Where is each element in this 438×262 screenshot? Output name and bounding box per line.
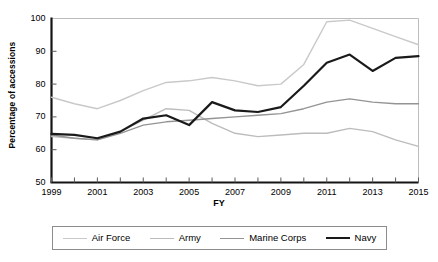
legend-label: Army <box>179 233 201 243</box>
x-tick-2005: 2005 <box>169 188 209 197</box>
legend-line-swatch <box>326 237 350 239</box>
legend-line-swatch <box>220 238 244 239</box>
x-tick-2015: 2015 <box>399 188 438 197</box>
x-tick-2013: 2013 <box>353 188 393 197</box>
legend-label: Navy <box>355 233 377 243</box>
x-axis-label: FY <box>0 198 438 208</box>
legend-item-air-force: Air Force <box>63 233 131 243</box>
x-tick-2001: 2001 <box>77 188 117 197</box>
chart-figure: Percentage of accessions 1009080706050 1… <box>0 0 438 262</box>
y-tick-60: 60 <box>24 145 46 154</box>
y-tick-70: 70 <box>24 112 46 121</box>
series-line-navy <box>52 55 419 139</box>
y-tick-100: 100 <box>24 14 46 23</box>
x-tick-2003: 2003 <box>123 188 163 197</box>
plot-area <box>0 0 438 262</box>
x-tick-2007: 2007 <box>215 188 255 197</box>
series-lines <box>52 20 419 146</box>
y-tick-50: 50 <box>24 178 46 187</box>
x-tick-2011: 2011 <box>307 188 347 197</box>
y-axis-label-container: Percentage of accessions <box>0 0 24 190</box>
legend-item-army: Army <box>150 233 201 243</box>
legend-item-navy: Navy <box>326 233 377 243</box>
legend-label: Air Force <box>92 233 131 243</box>
x-tick-2009: 2009 <box>261 188 301 197</box>
legend-item-marine-corps: Marine Corps <box>220 233 306 243</box>
x-tick-1999: 1999 <box>32 188 72 197</box>
axis-lines <box>51 18 419 183</box>
chart-legend: Air ForceArmyMarine CorpsNavy <box>52 226 387 250</box>
legend-line-swatch <box>63 238 87 239</box>
legend-label: Marine Corps <box>249 233 306 243</box>
legend-line-swatch <box>150 238 174 239</box>
y-tick-90: 90 <box>24 47 46 56</box>
y-axis-label: Percentage of accessions <box>7 42 17 149</box>
series-line-army <box>52 109 419 147</box>
y-tick-80: 80 <box>24 80 46 89</box>
